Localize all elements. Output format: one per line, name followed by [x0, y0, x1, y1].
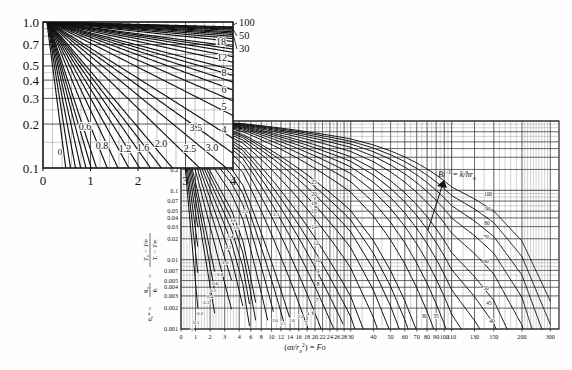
curve-label: 18: [311, 200, 317, 206]
curve-label: 2.5: [280, 321, 286, 326]
curve-label: 12: [313, 240, 319, 246]
y-tick-label: 0.01: [167, 256, 178, 263]
curve-label: 8: [222, 67, 227, 78]
x-tick-label: 6: [249, 333, 252, 340]
y-axis-label-part: T₀ − T∞: [142, 239, 149, 261]
x-tick-label: 1: [87, 173, 94, 188]
x-tick-label: 90: [433, 333, 439, 340]
y-tick-label: 0.1: [170, 187, 178, 194]
x-tick-label: 60: [402, 333, 408, 340]
y-tick-label: 0.2: [23, 117, 39, 132]
curve-label: 0.2: [197, 311, 204, 316]
y-tick-label: 0.4: [23, 73, 40, 88]
curve-label: 1.0: [222, 260, 229, 265]
curve-label: 5: [305, 320, 308, 326]
curve-label: 80: [484, 220, 490, 226]
curve-label: 16: [311, 208, 317, 214]
inset-y-ticklabels: 1.00.70.50.40.30.20.1: [23, 15, 40, 176]
x-tick-label: 2: [209, 333, 212, 340]
y-tick-label: 0.1: [23, 161, 39, 176]
curve-label: 30: [421, 313, 427, 319]
y-tick-label: 0.003: [164, 292, 178, 299]
y-tick-label: 0.3: [23, 91, 39, 106]
curve-label: 100: [484, 191, 492, 197]
x-tick-label: 4: [230, 173, 237, 188]
x-tick-label: 110: [447, 333, 456, 340]
main-x-ticklabels: 0123468101214161820222426283040506070809…: [179, 329, 554, 340]
x-tick-label: 20: [312, 333, 318, 340]
y-axis-label-part: θᵢ: [151, 287, 158, 292]
curve-label: 4: [222, 124, 227, 135]
curve-label: 1.2: [225, 245, 232, 250]
curve-label-outer: 50: [239, 30, 250, 41]
curve-label: 0.5: [210, 288, 217, 293]
curve-label: 40: [489, 318, 495, 324]
curve-label-outer: 100: [239, 17, 255, 28]
x-tick-label: 3: [223, 333, 226, 340]
inset-outer-labels: 1005030: [233, 17, 255, 54]
x-tick-label: 28: [341, 333, 347, 340]
x-tick-label: 0: [179, 333, 182, 340]
x-tick-label: 3: [182, 173, 189, 188]
y-axis-label-part: θ₀: [142, 287, 149, 292]
curve-label: 0.3: [203, 300, 210, 305]
x-tick-label: 12: [278, 333, 284, 340]
x-axis-label: (αt/ro2) = Fo: [284, 342, 326, 354]
y-axis-label-part: Tᵢ − T∞: [151, 239, 158, 260]
curve-label: 60: [483, 258, 489, 264]
curve-label: 50: [483, 285, 489, 291]
curve-label: 5: [222, 101, 227, 112]
curve-label: 10: [315, 257, 321, 263]
curve-label: 2.0: [242, 209, 249, 214]
main-x-axis-title: (αt/ro2) = Fo: [284, 342, 326, 354]
curve-label: 8: [317, 281, 320, 287]
x-tick-label: 130: [470, 333, 479, 340]
y-tick-label: 0.007: [164, 267, 178, 274]
curve-label: 6: [312, 310, 315, 316]
x-tick-label: 8: [260, 333, 263, 340]
curve-label: 3.5: [190, 122, 203, 133]
x-tick-label: 14: [287, 333, 293, 340]
heisler-chart-svg: 1.00.70.50.40.30.20.10.070.050.040.030.0…: [0, 0, 572, 370]
curve-label: 3.0: [206, 142, 219, 153]
x-tick-label: 0: [40, 173, 47, 188]
y-tick-label: 0.03: [167, 223, 178, 230]
curve-label: 45: [486, 300, 492, 306]
curve-label: 90: [485, 206, 491, 212]
x-tick-label: 22: [319, 333, 325, 340]
x-tick-label: 50: [388, 333, 394, 340]
curve-label: 7: [316, 297, 319, 303]
curve-label: 1.4: [227, 234, 234, 239]
curve-label: 12: [217, 52, 227, 63]
curve-label: 2.5: [184, 143, 197, 154]
curve-label: 9: [317, 268, 320, 274]
curve-label: 2.0: [272, 318, 278, 323]
x-tick-label: 24: [327, 333, 333, 340]
curve-label: 0.6: [212, 281, 219, 286]
curve-label: 20: [311, 191, 317, 197]
x-tick-label: 80: [424, 333, 430, 340]
x-tick-label: 16: [296, 333, 302, 340]
x-tick-label: 70: [414, 333, 420, 340]
curve-label: 3.5: [297, 314, 303, 319]
y-axis-label-part: θ₀* =: [146, 306, 154, 321]
x-tick-label: 150: [489, 333, 498, 340]
curve-label: 6: [222, 84, 227, 95]
y-tick-label: 0.04: [167, 214, 178, 221]
y-tick-label: 0.002: [164, 304, 178, 311]
y-tick-label: 0.7: [23, 37, 40, 52]
curve-label: 70: [483, 234, 489, 240]
curve-label-outer: 30: [239, 43, 250, 54]
curve-label: 2.5: [273, 212, 280, 217]
curve-label: 1.6: [233, 225, 240, 230]
x-tick-label: 30: [348, 333, 354, 340]
x-tick-label: 40: [370, 333, 376, 340]
curve-label: 0: [58, 147, 63, 157]
y-tick-label: 0.07: [167, 197, 178, 204]
curve-label: 1.6: [137, 142, 150, 153]
curve-label: 0.4: [207, 294, 214, 299]
x-tick-label: 2: [135, 173, 142, 188]
curve-label: 0.6: [79, 121, 92, 132]
x-tick-label: 18: [304, 333, 310, 340]
curve-label: 14: [311, 224, 317, 230]
